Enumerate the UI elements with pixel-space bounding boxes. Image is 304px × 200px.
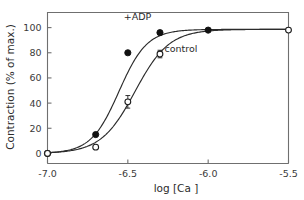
- x-tick-label: -6.0: [199, 168, 218, 179]
- figure-container: 020406080100 -7.0-6.5-6.0-5.5 +ADPcontro…: [0, 0, 304, 200]
- data-point-control: [45, 151, 51, 157]
- series-label-adp: +ADP: [124, 11, 152, 22]
- y-tick-label: 80: [29, 47, 41, 58]
- y-tick-label: 60: [29, 72, 41, 83]
- data-point-control: [286, 27, 292, 33]
- y-tick-label: 20: [29, 123, 41, 134]
- data-point-adp: [157, 30, 163, 36]
- data-point-control: [93, 144, 99, 150]
- x-axis-title: log [Ca ]: [154, 182, 199, 194]
- x-tick-label: -7.0: [38, 168, 57, 179]
- x-tick-label: -5.5: [279, 168, 298, 179]
- y-tick-label: 40: [29, 98, 41, 109]
- data-point-control: [125, 99, 131, 105]
- data-point-adp: [125, 50, 131, 56]
- y-axis-title: Contraction (% of max.): [4, 24, 16, 150]
- plot-frame: [48, 13, 289, 164]
- x-tick-label: -6.5: [119, 168, 138, 179]
- data-point-adp: [205, 27, 211, 33]
- data-point-control: [157, 51, 163, 57]
- data-point-adp: [93, 131, 99, 137]
- y-tick-label: 100: [23, 22, 41, 33]
- series-label-control: control: [164, 43, 197, 54]
- dose-response-chart: 020406080100 -7.0-6.5-6.0-5.5 +ADPcontro…: [0, 0, 304, 200]
- y-tick-label: 0: [35, 148, 41, 159]
- x-axis-ticks: -7.0-6.5-6.0-5.5: [38, 160, 298, 179]
